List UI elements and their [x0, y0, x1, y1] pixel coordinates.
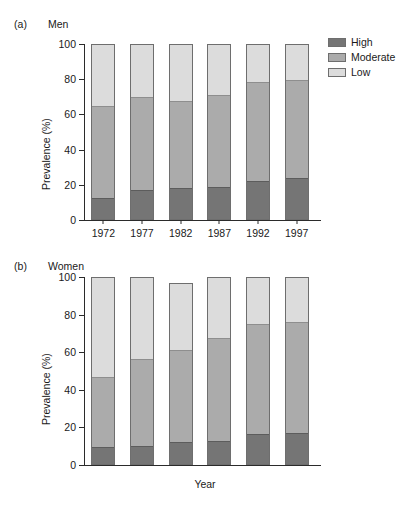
y-axis-label-men: Prevalence (%)	[40, 118, 52, 190]
bar-segment-low	[170, 284, 192, 351]
legend-label-moderate: Moderate	[351, 52, 395, 63]
figure-canvas: (a) Men Prevalence (%) 020406080100 1972…	[0, 0, 410, 512]
x-tick-men-1987	[219, 220, 220, 224]
bar-segment-moderate	[131, 97, 153, 190]
bar-segment-moderate	[170, 101, 192, 188]
x-tick-men-1997	[296, 220, 297, 224]
x-axis-men: 197219771982198719921997	[84, 220, 316, 240]
bar-segment-high	[131, 190, 153, 220]
bar-segment-high	[286, 433, 308, 465]
y-tick-label-women-60: 60	[64, 346, 76, 358]
bar-segment-low	[286, 278, 308, 322]
x-tick-label-men-1992: 1992	[246, 227, 269, 239]
y-axis-label-women: Prevalence (%)	[40, 353, 52, 425]
legend: HighModerateLow	[328, 36, 408, 81]
panel-tag-b: (b)	[14, 260, 27, 272]
legend-item-moderate[interactable]: Moderate	[328, 51, 408, 64]
bar-segment-moderate	[170, 350, 192, 442]
x-tick-men-1992	[258, 220, 259, 224]
panel-tag-a: (a)	[14, 18, 27, 30]
x-tick-men-1982	[180, 220, 181, 224]
legend-label-low: Low	[351, 67, 370, 78]
bar-segment-low	[131, 278, 153, 359]
y-tick-label-women-40: 40	[64, 384, 76, 396]
x-tick-men-1972	[103, 220, 104, 224]
bar-segment-moderate	[208, 338, 230, 440]
x-tick-men-1977	[142, 220, 143, 224]
x-tick-label-men-1982: 1982	[169, 227, 192, 239]
bar-segment-moderate	[286, 80, 308, 178]
legend-item-high[interactable]: High	[328, 36, 408, 49]
x-tick-label-men-1972: 1972	[92, 227, 115, 239]
bar-segment-high	[170, 442, 192, 465]
bar-segment-high	[208, 187, 230, 220]
bar-segment-moderate	[92, 377, 114, 448]
bar-segment-moderate	[286, 322, 308, 433]
x-axis-label: Year	[0, 478, 410, 490]
y-tick-label-men-40: 40	[64, 144, 76, 156]
panel-title-men: Men	[48, 18, 68, 30]
bar-segment-high	[131, 446, 153, 465]
plot-area-men: 020406080100	[84, 44, 316, 220]
bar-segment-high	[247, 181, 269, 220]
legend-swatch-high	[328, 38, 346, 47]
y-tick-label-women-20: 20	[64, 421, 76, 433]
bar-segment-low	[286, 45, 308, 80]
bar-segment-moderate	[247, 82, 269, 181]
bar-segment-high	[92, 198, 114, 220]
bar-segment-high	[92, 447, 114, 465]
plot-area-women: 020406080100	[84, 277, 316, 465]
y-tick-label-women-0: 0	[70, 459, 76, 471]
y-tick-label-men-60: 60	[64, 108, 76, 120]
y-tick-label-men-0: 0	[70, 214, 76, 226]
y-tick-label-men-20: 20	[64, 179, 76, 191]
bar-segment-low	[247, 278, 269, 324]
bar-series-women	[84, 277, 316, 465]
y-tick-label-men-80: 80	[64, 73, 76, 85]
legend-swatch-moderate	[328, 53, 346, 62]
bar-segment-high	[286, 178, 308, 220]
y-tick-women-0	[79, 465, 84, 466]
legend-label-high: High	[351, 37, 373, 48]
y-tick-label-men-100: 100	[58, 38, 76, 50]
x-tick-label-men-1987: 1987	[208, 227, 231, 239]
bar-segment-moderate	[92, 106, 114, 198]
bar-segment-low	[247, 45, 269, 82]
panel-women: (b) Women Prevalence (%) 020406080100 19…	[0, 250, 410, 512]
legend-swatch-low	[328, 68, 346, 77]
bar-segment-low	[208, 45, 230, 95]
bar-segment-high	[247, 434, 269, 465]
bar-segment-moderate	[131, 359, 153, 446]
bar-segment-high	[170, 188, 192, 220]
y-tick-label-women-100: 100	[58, 271, 76, 283]
bar-segment-low	[170, 45, 192, 101]
bar-segment-high	[208, 441, 230, 465]
bar-segment-moderate	[208, 95, 230, 187]
bar-segment-moderate	[247, 324, 269, 434]
bar-segment-low	[92, 278, 114, 377]
x-tick-label-men-1997: 1997	[285, 227, 308, 239]
y-tick-label-women-80: 80	[64, 309, 76, 321]
x-tick-label-men-1977: 1977	[130, 227, 153, 239]
bar-segment-low	[131, 45, 153, 97]
legend-item-low[interactable]: Low	[328, 66, 408, 79]
bar-segment-low	[208, 278, 230, 338]
bar-series-men	[84, 44, 316, 220]
bar-segment-low	[92, 45, 114, 106]
